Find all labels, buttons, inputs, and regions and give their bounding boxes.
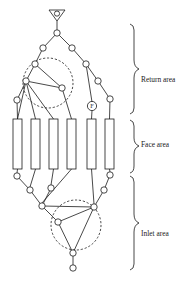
- edge-rect1-n12: [17, 169, 18, 173]
- face-rect-2: [31, 119, 40, 169]
- node-n9: [14, 97, 20, 103]
- area-annotations: Return area Face area Inlet area: [130, 24, 176, 270]
- node-n17: [39, 203, 45, 209]
- inlet-area-brace: [130, 176, 139, 270]
- node-n6: [23, 78, 29, 84]
- face-area-brace: [130, 120, 139, 173]
- face-rect-3: [49, 119, 58, 169]
- edge-fannode-rect5: [92, 111, 93, 119]
- edge-rect2-n14: [30, 169, 36, 187]
- node-n3: [69, 45, 75, 51]
- node-n8: [59, 85, 65, 91]
- face-area-rectangles: [13, 119, 114, 169]
- inlet-area-edges: [17, 169, 110, 268]
- node-n1: [54, 30, 60, 36]
- exhaust-fan-symbol: [49, 10, 65, 30]
- face-area-label: Face area: [141, 140, 170, 149]
- edge-n8-rect4: [62, 88, 72, 119]
- edge-rect5-n18: [92, 169, 95, 204]
- network-svg-canvas: F: [0, 0, 190, 286]
- return-area-label: Return area: [141, 75, 176, 84]
- inlet-area-nodes: [14, 172, 113, 271]
- face-rect-6: [105, 119, 114, 169]
- node-n12: [14, 173, 20, 179]
- node-n7: [95, 78, 101, 84]
- node-n2: [40, 45, 46, 51]
- face-rect-5: [87, 119, 96, 169]
- node-n5: [83, 61, 89, 67]
- edge-n6-n8: [26, 81, 62, 88]
- node-n19: [55, 219, 61, 225]
- node-n10: [107, 96, 113, 102]
- inlet-area-label: Inlet area: [141, 229, 169, 238]
- face-rect-4: [67, 119, 76, 169]
- fan-inner-circle-icon: [54, 11, 59, 16]
- edge-n5-fannode: [86, 64, 92, 102]
- node-n4: [32, 61, 38, 67]
- node-n21: [70, 265, 76, 271]
- node-n14: [27, 187, 33, 193]
- edge-n17-n18: [42, 206, 94, 207]
- edge-n18-n20: [73, 207, 94, 253]
- node-n13: [107, 172, 113, 178]
- edge-n19-n20: [58, 222, 73, 253]
- node-n15: [48, 185, 54, 191]
- node-n18: [91, 204, 97, 210]
- node-n20: [70, 250, 76, 256]
- node-n16: [101, 187, 107, 193]
- edge-n6-rect2: [26, 81, 36, 119]
- edge-n6-rect3: [26, 81, 54, 119]
- edge-n4-n8: [35, 64, 62, 88]
- ventilation-network-diagram: F: [0, 0, 190, 286]
- edge-rect3-n15: [51, 169, 54, 185]
- face-rect-1: [13, 119, 22, 169]
- return-area-brace: [130, 24, 139, 114]
- fan-node-label: F: [90, 102, 94, 109]
